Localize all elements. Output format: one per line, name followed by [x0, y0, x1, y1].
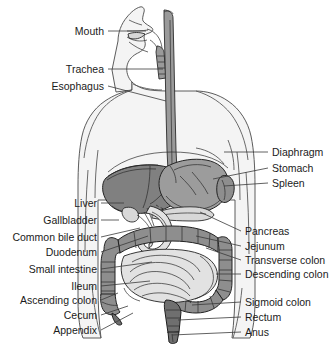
- spleen-group: [217, 175, 234, 202]
- rectum-group: [164, 300, 181, 344]
- label-duodenum: Duodenum: [46, 246, 98, 258]
- label-liver: Liver: [74, 197, 97, 209]
- label-diaphragm: Diaphragm: [272, 146, 324, 158]
- small-intestine: [121, 249, 217, 302]
- label-common-bile-duct: Common bile duct: [12, 231, 97, 243]
- label-rectum: Rectum: [245, 311, 281, 323]
- label-stomach: Stomach: [272, 162, 314, 174]
- label-ascending-colon: Ascending colon: [20, 294, 97, 306]
- label-transverse-colon: Transverse colon: [245, 254, 325, 266]
- label-sigmoid-colon: Sigmoid colon: [245, 296, 311, 308]
- label-mouth: Mouth: [75, 25, 104, 37]
- small-intestine-group: [121, 249, 217, 303]
- label-ileum: Ileum: [71, 280, 97, 292]
- anus: [168, 332, 179, 344]
- label-gallbladder: Gallbladder: [43, 214, 97, 226]
- label-anus: Anus: [245, 326, 269, 338]
- anatomy-illustration: Mouth Trachea Esophagus Liver Gallbladde…: [0, 0, 334, 353]
- label-small-intestine: Small intestine: [29, 263, 97, 275]
- label-jejunum: Jejunum: [245, 240, 285, 252]
- leader-anus: [172, 332, 241, 335]
- leader-rectum: [178, 317, 241, 320]
- label-esophagus: Esophagus: [51, 80, 104, 92]
- head-profile: [112, 7, 153, 92]
- label-appendix: Appendix: [53, 324, 98, 336]
- spleen: [217, 175, 234, 202]
- labels-right: Diaphragm Stomach Spleen Pancreas Jejunu…: [245, 146, 329, 338]
- label-spleen: Spleen: [272, 177, 305, 189]
- leader-appendix: [101, 313, 133, 330]
- digestive-system-diagram: Mouth Trachea Esophagus Liver Gallbladde…: [0, 0, 334, 353]
- label-trachea: Trachea: [66, 63, 104, 75]
- label-pancreas: Pancreas: [245, 225, 289, 237]
- label-descending-colon: Descending colon: [245, 268, 329, 280]
- label-cecum: Cecum: [64, 309, 98, 321]
- rectum: [164, 300, 181, 333]
